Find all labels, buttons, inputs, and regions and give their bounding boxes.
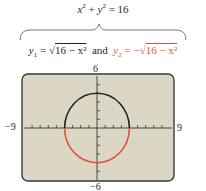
y1-equation: y1 = √16 − x² (29, 44, 87, 56)
y-min-label: −6 (90, 181, 101, 191)
x-max-label: 9 (177, 122, 182, 133)
and-connector: and (92, 44, 108, 56)
y-max-label: 6 (93, 63, 98, 74)
brace (20, 24, 186, 40)
calculator-screen (22, 74, 174, 181)
graph-figure (0, 0, 206, 191)
y2-equation: y2 = −√16 − x² (113, 44, 177, 56)
split-equations: y1 = √16 − x² and y2 = −√16 − x² (0, 44, 206, 56)
x-min-label: −9 (5, 121, 16, 132)
